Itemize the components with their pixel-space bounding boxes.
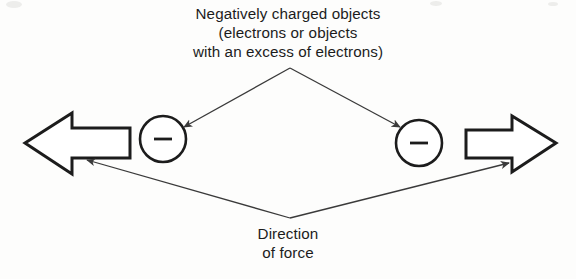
top-caption-line-3: with an excess of electrons) (0, 42, 576, 61)
top-caption-line-2: (electrons or objects (0, 23, 576, 42)
leader-top-left (184, 68, 290, 127)
bottom-caption: Direction of force (0, 224, 576, 262)
bottom-caption-line-2: of force (0, 243, 576, 262)
leader-bottom-right (290, 163, 509, 218)
top-caption: Negatively charged objects (electrons or… (0, 4, 576, 61)
bottom-caption-line-1: Direction (0, 224, 576, 243)
leader-bottom-left (87, 160, 290, 218)
leader-top-right (290, 68, 400, 127)
right-force-arrow (466, 116, 556, 172)
top-caption-line-1: Negatively charged objects (0, 4, 576, 23)
left-force-arrow (25, 113, 130, 174)
force-diagram: Negatively charged objects (electrons or… (0, 0, 576, 279)
